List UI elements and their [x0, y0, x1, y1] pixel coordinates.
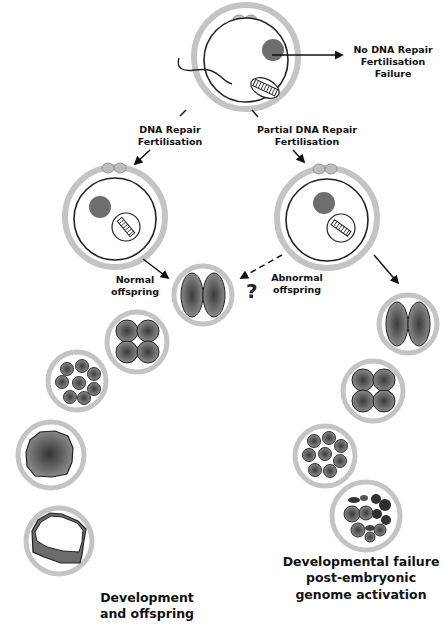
label-partial-dna-repair: Partial DNA Repair Fertilisation: [252, 124, 362, 148]
four-cell-embryo-left: [107, 312, 167, 372]
label-line: Fertilisation: [252, 136, 362, 148]
label-line: No DNA Repair: [344, 44, 442, 56]
oocyte-with-sperm: [178, 5, 298, 109]
four-cell-embryo-right: [343, 361, 403, 421]
morula-left: [18, 422, 84, 488]
label-line: Fertilisation: [344, 56, 442, 68]
label-no-repair: No DNA Repair Fertilisation Failure: [344, 44, 442, 80]
label-line: offspring: [262, 284, 332, 296]
eight-cell-embryo-right: [295, 426, 355, 486]
arrow-partial-to-2cell: [374, 255, 398, 283]
eight-cell-embryo-left: [48, 352, 106, 410]
arrow-to-partial-zygote: [293, 150, 304, 162]
label-development: Development and offspring: [92, 590, 202, 623]
question-mark: ?: [246, 279, 258, 303]
label-line: Fertilisation: [120, 136, 220, 148]
zygote-partial-repair: [277, 164, 377, 268]
fragmented-embryo-right: [332, 482, 400, 550]
blastocyst-left: [26, 508, 92, 574]
label-line: Failure: [344, 68, 442, 80]
label-developmental-failure: Developmental failure post-embryonic gen…: [280, 554, 442, 603]
label-line: Partial DNA Repair: [252, 124, 362, 136]
label-line: DNA Repair: [120, 124, 220, 136]
label-line: Normal: [100, 274, 170, 286]
label-dna-repair: DNA Repair Fertilisation: [120, 124, 220, 148]
diagram-canvas: [0, 0, 444, 637]
label-line: genome activation: [280, 587, 442, 603]
label-line: offspring: [100, 286, 170, 298]
label-line: Abnormal: [262, 272, 332, 284]
line-repair: [180, 110, 186, 116]
label-line: Developmental failure: [280, 554, 442, 570]
label-line: post-embryonic: [280, 570, 442, 586]
two-cell-embryo-shared: [174, 266, 232, 324]
label-normal-offspring: Normal offspring: [100, 274, 170, 298]
zygote-repaired: [65, 163, 165, 267]
label-line: Development: [92, 590, 202, 606]
two-cell-embryo-right: [379, 295, 437, 353]
label-abnormal-offspring: Abnormal offspring: [262, 272, 332, 296]
label-line: and offspring: [92, 606, 202, 622]
arrow-to-repaired-zygote: [135, 150, 150, 164]
